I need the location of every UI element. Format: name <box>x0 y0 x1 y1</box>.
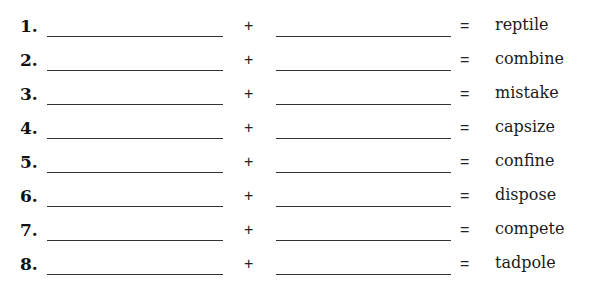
item-number: 4. <box>20 118 38 138</box>
syllable-1-blank[interactable] <box>47 274 223 275</box>
target-word: reptile <box>495 15 549 34</box>
syllable-2-blank[interactable] <box>276 36 451 37</box>
target-word: dispose <box>495 185 556 204</box>
syllable-1-blank[interactable] <box>47 172 223 173</box>
worksheet-row: 7. + = compete <box>0 216 599 250</box>
syllable-2-blank[interactable] <box>276 172 451 173</box>
item-number: 6. <box>20 186 38 206</box>
syllable-1-blank[interactable] <box>47 36 223 37</box>
equals-sign: = <box>460 153 469 171</box>
worksheet-row: 5. + = confine <box>0 148 599 182</box>
syllable-2-blank[interactable] <box>276 206 451 207</box>
target-word: mistake <box>495 83 559 102</box>
equals-sign: = <box>460 221 469 239</box>
syllable-1-blank[interactable] <box>47 240 223 241</box>
equals-sign: = <box>460 51 469 69</box>
target-word: capsize <box>495 117 555 136</box>
worksheet-row: 4. + = capsize <box>0 114 599 148</box>
syllable-1-blank[interactable] <box>47 104 223 105</box>
syllable-2-blank[interactable] <box>276 70 451 71</box>
target-word: tadpole <box>495 253 556 272</box>
equals-sign: = <box>460 187 469 205</box>
equals-sign: = <box>460 85 469 103</box>
item-number: 5. <box>20 152 38 172</box>
item-number: 2. <box>20 50 38 70</box>
syllable-2-blank[interactable] <box>276 104 451 105</box>
plus-sign: + <box>244 153 253 171</box>
worksheet-row: 3. + = mistake <box>0 80 599 114</box>
equals-sign: = <box>460 255 469 273</box>
worksheet-row: 8. + = tadpole <box>0 250 599 284</box>
plus-sign: + <box>244 255 253 273</box>
item-number: 1. <box>20 16 38 36</box>
plus-sign: + <box>244 119 253 137</box>
plus-sign: + <box>244 51 253 69</box>
syllable-1-blank[interactable] <box>47 206 223 207</box>
worksheet-row: 1. + = reptile <box>0 12 599 46</box>
plus-sign: + <box>244 17 253 35</box>
equals-sign: = <box>460 119 469 137</box>
syllable-2-blank[interactable] <box>276 240 451 241</box>
item-number: 8. <box>20 254 38 274</box>
item-number: 3. <box>20 84 38 104</box>
plus-sign: + <box>244 221 253 239</box>
target-word: compete <box>495 219 564 238</box>
target-word: confine <box>495 151 554 170</box>
syllable-2-blank[interactable] <box>276 274 451 275</box>
worksheet-row: 6. + = dispose <box>0 182 599 216</box>
plus-sign: + <box>244 187 253 205</box>
syllable-2-blank[interactable] <box>276 138 451 139</box>
syllable-1-blank[interactable] <box>47 70 223 71</box>
equals-sign: = <box>460 17 469 35</box>
worksheet-row: 2. + = combine <box>0 46 599 80</box>
plus-sign: + <box>244 85 253 103</box>
item-number: 7. <box>20 220 38 240</box>
target-word: combine <box>495 49 564 68</box>
syllable-1-blank[interactable] <box>47 138 223 139</box>
